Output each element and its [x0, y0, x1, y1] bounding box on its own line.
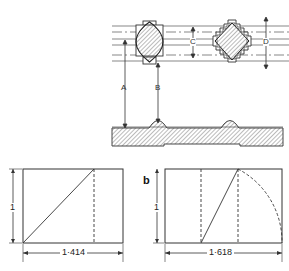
golden-panel-label: b [143, 175, 150, 186]
cross-section-round [136, 21, 163, 64]
diagram-canvas [0, 0, 289, 271]
dimension-b [156, 63, 160, 123]
label-b: B [155, 84, 160, 92]
baseline-section [112, 121, 283, 147]
golden-height-label: 1 [152, 203, 161, 212]
label-c: C [190, 38, 196, 46]
label-d: D [263, 38, 269, 46]
root2-height-label: 1 [8, 203, 17, 212]
label-a: A [121, 84, 126, 92]
golden-width-label: 1·618 [207, 248, 234, 257]
root2-width-label: 1·414 [60, 248, 87, 257]
